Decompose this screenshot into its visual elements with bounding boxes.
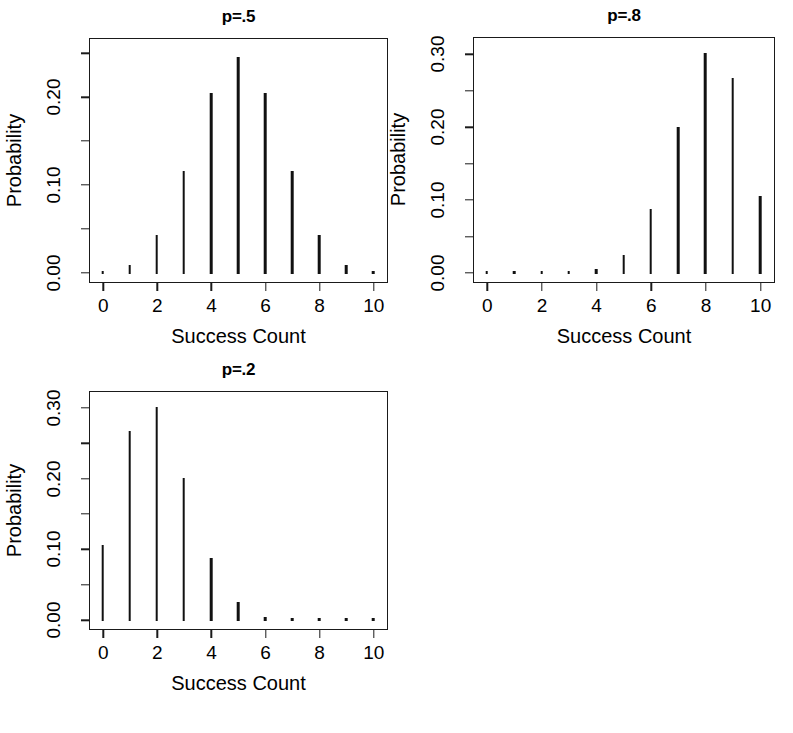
x-tick-label: 0 [98,642,109,664]
plot-area [89,391,388,630]
x-tick [319,630,320,638]
y-tick-label: 0.10 [43,527,65,571]
y-tick [81,513,89,514]
y-tick [81,443,89,444]
y-tick [81,549,89,550]
y-axis-title: Probability [3,430,26,590]
x-axis-title: Success Count [171,672,306,695]
y-tick [81,407,89,408]
data-needle [318,618,321,620]
data-needle [128,431,131,621]
data-needle [345,618,348,620]
x-tick [265,630,266,638]
x-tick-label: 2 [152,642,163,664]
chart-panel-2: p=.202468100.000.100.200.30Success Count… [0,0,793,733]
y-tick-label: 0.20 [43,457,65,501]
data-needle [264,617,267,621]
data-needle [210,558,213,620]
x-tick [157,630,158,638]
x-tick-label: 4 [206,642,217,664]
x-tick [103,630,104,638]
y-tick-label: 0.30 [43,386,65,430]
x-tick-label: 6 [260,642,271,664]
data-needle [372,618,375,620]
data-needle [291,618,294,620]
x-tick [211,630,212,638]
data-needle [101,545,104,621]
y-tick [81,584,89,585]
y-tick [81,620,89,621]
data-needle [183,478,186,620]
y-tick-label: 0.00 [43,598,65,642]
data-needle [237,602,240,620]
data-needle [156,407,159,621]
x-tick [373,630,374,638]
x-tick-label: 10 [363,642,384,664]
panel-title: p=.2 [222,360,255,380]
y-tick [81,478,89,479]
x-tick-label: 8 [314,642,325,664]
